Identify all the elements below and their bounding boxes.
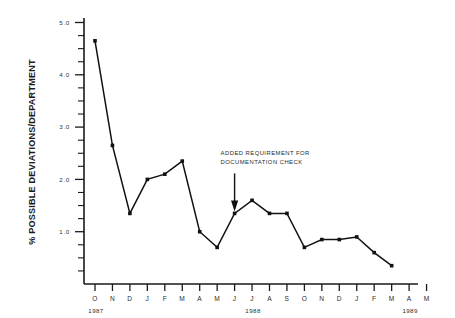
data-point-marker bbox=[390, 264, 394, 268]
chart-container: % POSSIBLE DEVIATIONS/DEPARTMENT 1.02.03… bbox=[0, 0, 455, 318]
data-point-marker bbox=[111, 144, 115, 148]
x-tick-label: D bbox=[127, 295, 132, 302]
x-tick-label: D bbox=[337, 295, 342, 302]
x-tick-label: F bbox=[163, 295, 167, 302]
annotation-added-requirement: ADDED REQUIREMENT FOR DOCUMENTATION CHEC… bbox=[221, 150, 310, 211]
x-tick-label: J bbox=[146, 295, 150, 302]
y-axis-tick-labels: 1.02.03.04.05.0 bbox=[59, 19, 70, 235]
data-point-marker bbox=[285, 212, 289, 216]
data-point-marker bbox=[372, 251, 376, 255]
x-tick-label: O bbox=[92, 295, 97, 302]
annotation-arrow-head-icon bbox=[231, 200, 238, 211]
x-axis-year-label: 1987 bbox=[88, 307, 104, 314]
data-point-marker bbox=[320, 238, 324, 242]
data-point-marker bbox=[303, 246, 307, 250]
x-tick-label: J bbox=[250, 295, 254, 302]
y-tick-label: 1.0 bbox=[59, 228, 70, 235]
annotation-line-1: ADDED REQUIREMENT FOR bbox=[221, 150, 310, 156]
x-tick-label: J bbox=[233, 295, 237, 302]
x-axis-tick-labels: ONDJFMAMJJASONDJFMAM bbox=[92, 295, 429, 302]
x-tick-label: O bbox=[302, 295, 307, 302]
data-point-marker bbox=[128, 212, 132, 216]
x-tick-label: M bbox=[389, 295, 395, 302]
deviations-line-chart: % POSSIBLE DEVIATIONS/DEPARTMENT 1.02.03… bbox=[0, 0, 455, 318]
y-tick-label: 3.0 bbox=[59, 123, 70, 130]
x-tick-label: M bbox=[424, 295, 430, 302]
x-axis-year-labels: 198719881989 bbox=[88, 307, 418, 314]
x-tick-label: M bbox=[214, 295, 220, 302]
data-point-marker bbox=[338, 238, 342, 242]
data-point-marker bbox=[233, 212, 237, 216]
data-point-marker bbox=[163, 172, 167, 176]
data-point-marker bbox=[93, 39, 97, 43]
x-tick-label: S bbox=[285, 295, 290, 302]
annotation-line-2: DOCUMENTATION CHECK bbox=[221, 159, 303, 165]
x-tick-label: F bbox=[372, 295, 376, 302]
y-axis-ticks bbox=[75, 23, 84, 271]
x-axis-ticks bbox=[95, 284, 427, 291]
x-axis-year-label: 1988 bbox=[245, 307, 261, 314]
data-point-marker bbox=[180, 159, 184, 163]
y-tick-label: 2.0 bbox=[59, 176, 70, 183]
x-tick-label: N bbox=[319, 295, 324, 302]
x-tick-label: A bbox=[267, 295, 272, 302]
x-tick-label: A bbox=[407, 295, 412, 302]
y-tick-label: 4.0 bbox=[59, 71, 70, 78]
y-axis-label: % POSSIBLE DEVIATIONS/DEPARTMENT bbox=[27, 59, 37, 245]
y-tick-label: 5.0 bbox=[59, 19, 70, 26]
x-tick-label: A bbox=[197, 295, 202, 302]
data-point-marker bbox=[215, 246, 219, 250]
x-axis-year-label: 1989 bbox=[402, 307, 418, 314]
x-tick-label: M bbox=[179, 295, 185, 302]
data-point-marker bbox=[268, 212, 272, 216]
data-point-marker bbox=[146, 178, 150, 182]
data-point-marker bbox=[198, 230, 202, 234]
x-tick-label: J bbox=[355, 295, 359, 302]
data-point-marker bbox=[355, 235, 359, 239]
y-axis-label-text: % POSSIBLE DEVIATIONS/DEPARTMENT bbox=[27, 59, 37, 245]
x-tick-label: N bbox=[110, 295, 115, 302]
data-point-marker bbox=[250, 199, 254, 203]
